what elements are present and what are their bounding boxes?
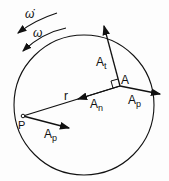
- omega-dot-label: ω̇: [25, 7, 35, 21]
- kinematics-diagram: ω̇ ω r P A At An Ap Ap: [0, 0, 169, 181]
- tangential-accel-arrow: [104, 26, 120, 86]
- At-label: At: [96, 55, 107, 71]
- r-label: r: [64, 89, 68, 103]
- An-label: An: [90, 97, 103, 113]
- point-A-label: A: [121, 73, 129, 87]
- point-P-label: P: [18, 119, 25, 131]
- Ap-label-P: Ap: [44, 127, 57, 143]
- normal-accel-arrow: [78, 86, 120, 99]
- point-P-marker: [21, 114, 25, 118]
- diagram-canvas: ω̇ ω r P A At An Ap Ap: [0, 0, 169, 181]
- point-accel-arrow-A: [120, 86, 160, 94]
- Ap-label-A: Ap: [128, 93, 141, 109]
- omega-label: ω: [33, 26, 42, 40]
